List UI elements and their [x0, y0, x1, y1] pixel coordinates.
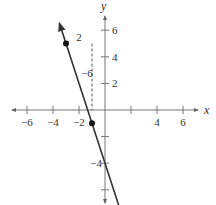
x-tick-label: −4 — [47, 116, 59, 128]
y-tick-label: 6 — [112, 24, 118, 36]
data-point — [63, 41, 69, 47]
annotation: 2 — [76, 31, 82, 43]
x-tick-label: 4 — [154, 116, 160, 128]
annotation: −6 — [81, 67, 93, 79]
y-tick-label: 4 — [112, 51, 118, 63]
coordinate-plane: xy −6−4−246642−4 2−6 — [0, 0, 216, 205]
axes: xy — [12, 0, 210, 203]
y-axis-label: y — [100, 0, 107, 13]
y-tick-label: 2 — [112, 77, 118, 89]
x-tick-label: −2 — [73, 116, 85, 128]
x-axis-label: x — [203, 103, 210, 117]
x-tick-label: −6 — [21, 116, 33, 128]
y-tick-label: −4 — [90, 157, 102, 169]
ticks: −6−4−246642−4 — [21, 24, 186, 190]
data-point — [89, 120, 95, 126]
labels: 2−6 — [76, 31, 93, 79]
x-tick-label: 6 — [180, 116, 186, 128]
